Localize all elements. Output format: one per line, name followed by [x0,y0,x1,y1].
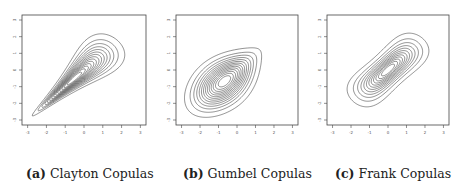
y-tick-label: 2 [317,35,322,38]
plot-frame [327,15,449,125]
y-tick-label: 3 [317,18,322,21]
x-tick-label: 0 [387,130,390,135]
y-tick-label: 0 [317,68,322,71]
contour-line [347,33,429,107]
y-tick-label: -2 [317,101,322,105]
x-tick-label: -2 [349,130,353,135]
panel-frank: -3-2-10123-3-2-10123 (c)Frank Copulas [0,0,463,193]
caption-frank: (c)Frank Copulas [335,166,451,181]
contour-plot-frank: -3-2-10123-3-2-10123 [0,0,463,160]
contour-line [358,43,419,98]
x-tick-label: 2 [424,130,427,135]
y-tick-label: 1 [317,52,322,55]
x-tick-label: -3 [331,130,335,135]
contour-line [353,39,422,101]
y-tick-label: -3 [317,118,322,122]
x-tick-label: -1 [368,130,372,135]
contour-lines [347,33,429,107]
x-tick-label: 1 [405,130,408,135]
caption-label: Frank Copulas [358,166,451,181]
contour-line [371,55,405,85]
contour-line [366,51,409,90]
y-tick-label: -1 [317,84,322,88]
caption-tag: (c) [335,166,354,181]
contour-line [369,53,407,88]
contour-line [381,64,394,76]
contour-line [364,48,412,92]
x-tick-label: 3 [442,130,445,135]
